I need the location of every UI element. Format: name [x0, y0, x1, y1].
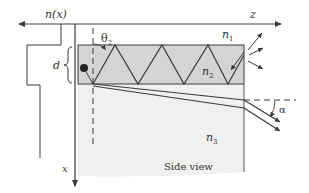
source-point — [80, 64, 88, 72]
theta-label: θ2 — [101, 32, 112, 47]
d-label: d — [53, 59, 60, 72]
core-layer — [78, 45, 244, 84]
d-brace — [64, 47, 72, 83]
waveguide-diagram: n(x) z x d θ2 n1 n2 n3 α Side view — [0, 0, 309, 193]
x-axis-label: x — [62, 163, 68, 174]
scatter-ray-1 — [248, 33, 262, 50]
alpha-label: α — [279, 104, 286, 115]
scatter-ray-2 — [249, 48, 263, 55]
z-axis-label: z — [249, 8, 256, 21]
n1-label: n1 — [222, 28, 234, 43]
index-profile — [27, 24, 61, 158]
alpha-arc — [270, 101, 275, 117]
side-view-label: Side view — [164, 161, 213, 172]
scatter-ray-3 — [248, 61, 263, 69]
n-profile-label: n(x) — [45, 8, 67, 21]
